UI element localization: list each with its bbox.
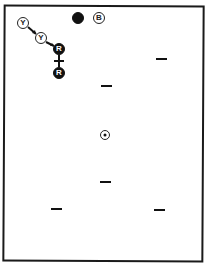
marker-y2: Y xyxy=(35,32,47,44)
marker-r2: R xyxy=(53,67,65,79)
marker-blackdot xyxy=(72,12,84,24)
dash-marker xyxy=(156,58,167,60)
dash-marker xyxy=(100,181,111,183)
dash-marker xyxy=(101,85,112,87)
marker-r1: R xyxy=(53,43,65,55)
dash-marker xyxy=(154,209,165,211)
dash-marker xyxy=(51,208,62,210)
marker-b: B xyxy=(93,12,105,24)
target-circle-icon xyxy=(100,130,110,140)
marker-y1: Y xyxy=(17,17,29,29)
